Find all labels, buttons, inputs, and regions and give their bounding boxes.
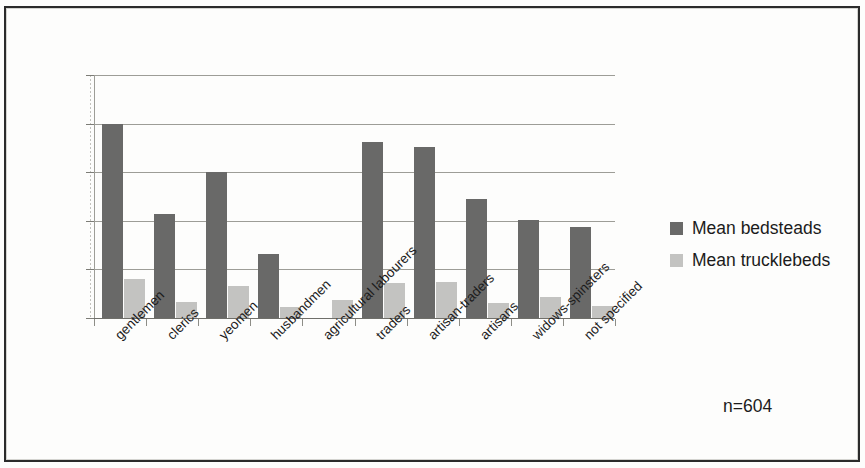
bar [414,147,435,318]
x-axis-tick [459,319,460,326]
x-axis-tick [355,319,356,326]
x-axis-tick [198,319,199,326]
bar [518,220,539,318]
x-axis-tick [302,319,303,326]
scanned-page: 012345 gentlemenclericsyeomenhusbandmena… [0,0,865,468]
x-axis-tick [511,319,512,326]
x-axis-tick [615,319,616,326]
legend-swatch-icon [670,254,683,267]
x-axis-tick [146,319,147,326]
bar-group-gentlemen [94,75,146,318]
bar [102,124,123,318]
legend-swatch-icon [670,222,683,235]
legend-label: Mean bedsteads [692,218,821,239]
bar-chart: 012345 gentlemenclericsyeomenhusbandmena… [0,0,865,468]
bar-group-artisan-traders [407,75,459,318]
legend-item: Mean bedsteads [670,212,830,244]
x-axis-tick [250,319,251,326]
bar-group-widows-spinsters [511,75,563,318]
bar-group [94,75,615,318]
legend-label: Mean trucklebeds [692,250,830,271]
x-axis-tick [407,319,408,326]
legend-item: Mean trucklebeds [670,244,830,276]
sample-size-note: n=604 [723,396,772,417]
chart-legend: Mean bedsteadsMean trucklebeds [670,212,830,276]
plot-area [94,75,615,318]
bar-group-husbandmen [250,75,302,318]
bar [206,172,227,318]
x-axis-tick [94,319,95,326]
bar-group-clerics [146,75,198,318]
x-axis-tick [563,319,564,326]
y-axis-dotted-guide [90,75,91,319]
bar-group-yeomen [198,75,250,318]
bar [258,254,279,318]
